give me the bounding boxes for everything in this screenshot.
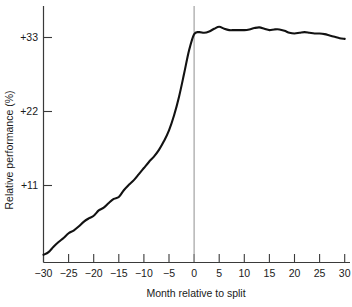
x-tick-label--25: −25 [60, 267, 78, 279]
y-axis-title: Relative performance (%) [3, 90, 15, 209]
y-tick-label-22: +22 [20, 105, 38, 117]
x-tick-label-25: 25 [314, 267, 326, 279]
x-tick-labels: −30 −25 −20 −15 −10 −5 0 5 10 15 20 25 3… [35, 267, 351, 279]
x-tick-label-10: 10 [238, 267, 250, 279]
x-tick-label--20: −20 [85, 267, 103, 279]
x-tick-label--30: −30 [35, 267, 53, 279]
y-tick-label-11: +11 [21, 179, 38, 191]
x-tick-label--10: −10 [135, 267, 153, 279]
line-chart-plot: Relative performance (%) +33 +22 +11 [0, 0, 352, 307]
x-tick-label-20: 20 [289, 267, 301, 279]
x-tick-label--5: −5 [163, 267, 175, 279]
x-tick-label-30: 30 [339, 267, 351, 279]
y-tick-label-33: +33 [20, 31, 38, 43]
x-axis-title: Month relative to split [146, 287, 245, 299]
x-tick-label-5: 5 [216, 267, 222, 279]
chart-figure: Relative performance (%) +33 +22 +11 [0, 0, 352, 307]
x-tick-label-15: 15 [264, 267, 276, 279]
x-tick-label--15: −15 [110, 267, 128, 279]
x-tick-label-0: 0 [191, 267, 197, 279]
